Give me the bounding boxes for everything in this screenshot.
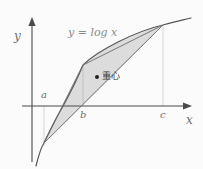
centroid-marker-dot [95,75,99,79]
curve-equation-label: y = log x [68,27,117,38]
log-curve-centroid-figure: y x y = log x a b c 重心 [0,0,203,169]
y-axis-label: y [14,30,21,42]
x-axis-arrowhead [183,102,192,109]
tick-label-a: a [41,90,47,100]
log-curve [36,18,191,166]
tick-label-b: b [80,110,86,120]
y-axis-arrowhead [28,17,35,26]
centroid-label: 重心 [102,72,120,81]
x-axis-label: x [186,114,193,126]
tick-label-c: c [160,110,166,120]
chord-ac [44,25,163,143]
